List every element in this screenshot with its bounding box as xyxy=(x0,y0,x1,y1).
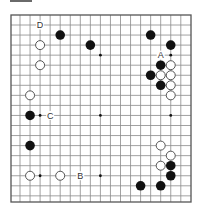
point-label-c: C xyxy=(47,111,54,121)
white-stone xyxy=(156,71,165,80)
black-stone xyxy=(156,181,166,191)
star-point xyxy=(169,114,172,117)
black-stone xyxy=(55,30,65,40)
star-point xyxy=(99,54,102,57)
white-stone xyxy=(56,171,65,180)
black-stone xyxy=(166,171,176,181)
white-stone xyxy=(26,171,35,180)
point-label-d: D xyxy=(37,20,44,30)
star-point xyxy=(99,114,102,117)
black-stone xyxy=(136,181,146,191)
star-point xyxy=(169,54,172,57)
white-stone xyxy=(166,91,175,100)
point-label-b: B xyxy=(77,171,83,181)
star-point xyxy=(99,174,102,177)
go-board: DACB xyxy=(0,0,198,214)
star-point xyxy=(39,174,42,177)
white-stone xyxy=(166,61,175,70)
white-stone xyxy=(156,141,165,150)
white-stone xyxy=(156,161,165,170)
black-stone xyxy=(166,40,176,50)
black-stone xyxy=(146,70,156,80)
white-stone xyxy=(166,81,175,90)
white-stone xyxy=(36,61,45,70)
black-stone xyxy=(156,81,166,91)
white-stone xyxy=(166,71,175,80)
black-stone xyxy=(166,161,176,171)
white-stone xyxy=(26,91,35,100)
star-point xyxy=(39,114,42,117)
point-label-a: A xyxy=(158,50,164,60)
black-stone xyxy=(86,40,96,50)
white-stone xyxy=(166,151,175,160)
black-stone xyxy=(146,30,156,40)
white-stone xyxy=(36,41,45,50)
black-stone xyxy=(25,111,35,121)
black-stone xyxy=(156,60,166,70)
black-stone xyxy=(25,141,35,151)
